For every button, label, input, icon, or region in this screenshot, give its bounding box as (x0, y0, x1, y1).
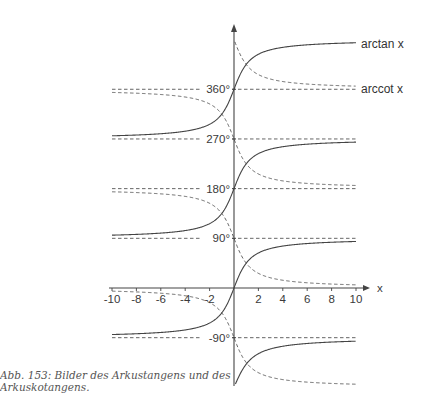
arccot-branch-right (234, 239, 355, 285)
arctan-arccot-chart: x -10-8-6-4-2246810-90°90°180°270°360° a… (0, 0, 421, 403)
arccot-branch-right (234, 140, 355, 186)
y-tick-label: 360° (206, 83, 230, 95)
arctan-label: arctan x (361, 37, 404, 51)
arccot-branch-right (235, 42, 356, 86)
series-labels: arctan xarccot x (361, 37, 404, 96)
x-tick-label: 4 (280, 293, 287, 305)
x-tick-label: 8 (328, 293, 334, 305)
x-tick-label: 6 (304, 293, 310, 305)
x-tick-label: 2 (255, 293, 261, 305)
arccot-label: arccot x (361, 82, 403, 96)
y-tick-label: 270° (206, 133, 230, 145)
y-tick-label: 180° (206, 183, 230, 195)
arccot-branch-left (112, 92, 233, 137)
y-tick-label: 90° (213, 232, 230, 244)
x-axis-arrow-icon (363, 285, 370, 291)
arccot-branch-left (112, 192, 233, 237)
x-tick-label: -8 (131, 293, 141, 305)
y-axis-arrow-icon (231, 24, 237, 32)
arccot-branch-right (234, 338, 355, 384)
x-tick-label: -4 (180, 293, 191, 305)
axes: x (109, 24, 383, 386)
x-axis-label: x (377, 282, 383, 294)
y-tick-label: -90° (209, 332, 230, 344)
x-tick-label: -6 (156, 293, 166, 305)
axis-ticks: -10-8-6-4-2246810-90°90°180°270°360° (104, 82, 363, 343)
arctan-partial-branch (235, 341, 355, 384)
x-tick-label: -2 (204, 293, 214, 305)
figure-caption: Abb. 153: Bilder des Arkustangens und de… (0, 369, 240, 393)
x-tick-label: 10 (350, 293, 363, 305)
arccot-branch-left (112, 291, 233, 336)
x-tick-label: -10 (104, 293, 121, 305)
